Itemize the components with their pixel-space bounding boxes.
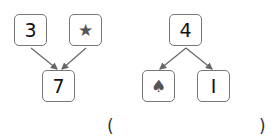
star-icon: ★ [78,20,93,40]
box-top: 4 [169,14,202,46]
box-bottom-left: ♠ [142,70,175,102]
value-3: 3 [24,19,36,41]
answer-close-paren: ) [259,116,266,136]
box-bottom: 7 [42,70,75,102]
value-7: 7 [52,75,64,97]
answer-open-paren: ( [107,116,114,136]
box-bottom-right: I [197,70,230,102]
value-1: I [211,75,217,97]
box-top-left: 3 [14,14,47,46]
box-top-right: ★ [69,14,102,46]
spade-icon: ♠ [151,76,166,96]
value-4: 4 [179,19,191,41]
